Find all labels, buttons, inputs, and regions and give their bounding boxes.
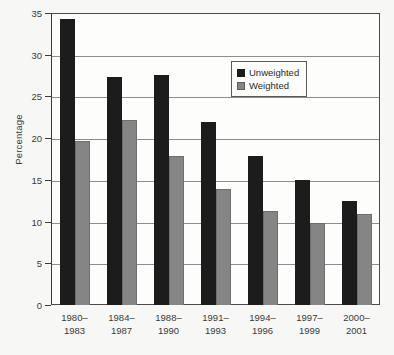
y-tick-label-10: 10	[2, 216, 42, 227]
y-tick-label-30: 30	[2, 49, 42, 60]
x-tick-label-line: 2000–	[325, 312, 389, 325]
y-tick-label-25: 25	[2, 91, 42, 102]
x-tick-label-line: 2001	[325, 325, 389, 338]
legend-label: Unweighted	[249, 67, 299, 78]
legend-swatch-weighted-icon	[237, 82, 245, 90]
chart-legend: UnweightedWeighted	[231, 61, 307, 97]
y-tick-0	[45, 305, 51, 306]
gridline-5	[52, 264, 379, 265]
legend-item-unweighted: Unweighted	[237, 66, 299, 79]
legend-swatch-unweighted-icon	[237, 69, 245, 77]
y-tick-label-0: 0	[2, 300, 42, 311]
y-tick-label-5: 5	[2, 258, 42, 269]
legend-label: Weighted	[249, 80, 289, 91]
y-tick-label-20: 20	[2, 133, 42, 144]
y-tick-label-35: 35	[2, 8, 42, 19]
y-tick-label-15: 15	[2, 174, 42, 185]
bar-chart: Percentage 05101520253035 1980–19831984–…	[0, 0, 394, 355]
legend-item-weighted: Weighted	[237, 79, 299, 92]
plot-area	[51, 13, 380, 305]
gridline-15	[52, 181, 379, 182]
gridline-20	[52, 139, 379, 140]
x-tick-label-6: 2000–2001	[325, 312, 389, 337]
gridline-10	[52, 223, 379, 224]
gridline-25	[52, 97, 379, 98]
gridline-30	[52, 56, 379, 57]
